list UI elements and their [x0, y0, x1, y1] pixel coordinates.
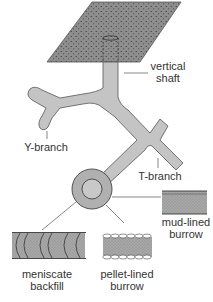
- label-vertical-shaft-line2: shaft: [156, 72, 180, 84]
- label-meniscate-line2: backfill: [30, 280, 64, 292]
- sediment-surface: [47, 2, 181, 62]
- label-t-branch: T-branch: [138, 170, 181, 182]
- pellet-lined-burrow-illustration: [103, 234, 152, 259]
- label-mud-lined-line2: burrow: [169, 228, 203, 240]
- label-pellet-lined-line1: pellet-lined: [100, 268, 153, 280]
- mud-lined-burrow-illustration: [162, 191, 207, 214]
- label-pellet-lined-line2: burrow: [110, 280, 144, 292]
- cross-section: [72, 169, 112, 209]
- label-y-branch: Y-branch: [24, 141, 68, 153]
- label-mud-lined-line1: mud-lined: [162, 216, 210, 228]
- label-vertical-shaft-line1: vertical: [151, 60, 186, 72]
- burrow-diagram: vertical shaft Y-branch T-branch mud-lin…: [0, 0, 213, 302]
- label-meniscate-line1: meniscate: [22, 268, 72, 280]
- meniscate-backfill-illustration: [12, 233, 86, 259]
